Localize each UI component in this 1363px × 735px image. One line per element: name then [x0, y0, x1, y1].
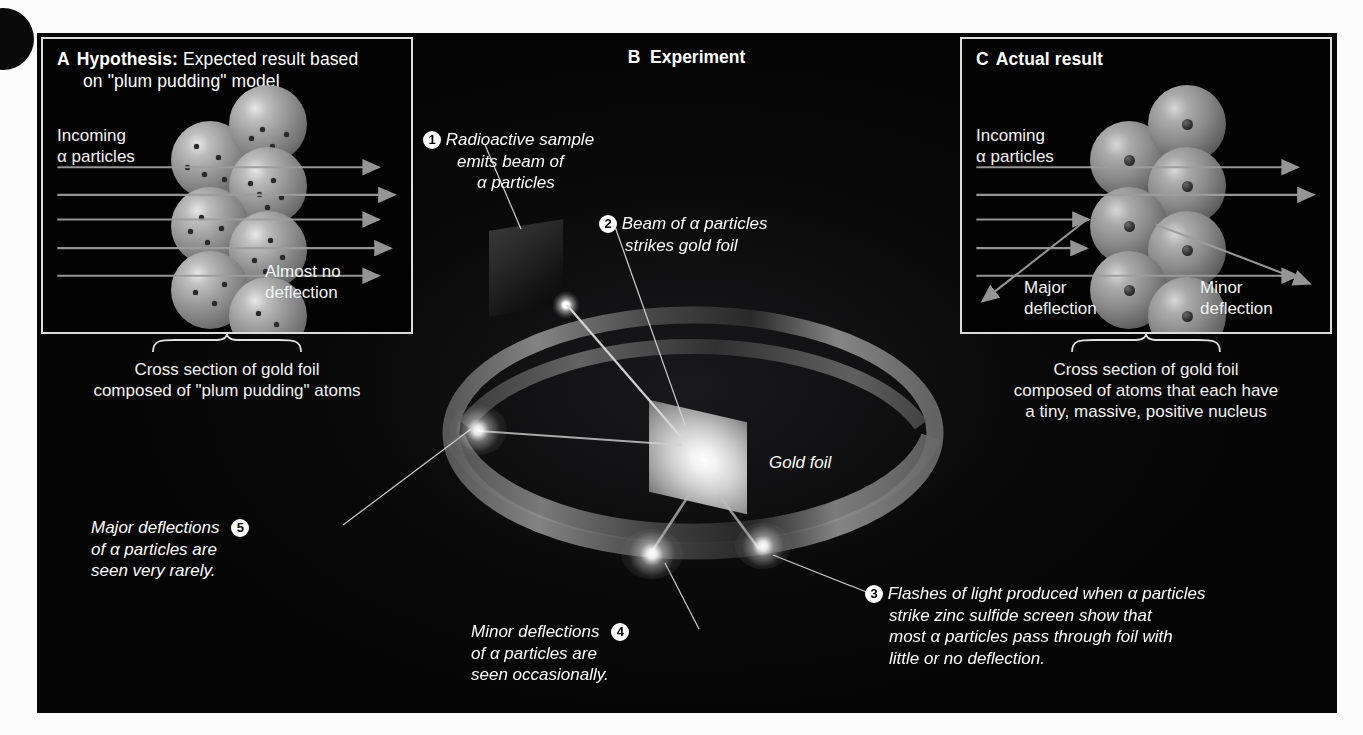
panel-b-tag: B	[628, 47, 641, 67]
callout-5-line3: seen very rarely.	[91, 561, 215, 580]
panel-a-result-line1: Almost no	[265, 262, 341, 281]
panel-c-caption-line2: composed of atoms that each have	[1014, 381, 1279, 400]
flash-of-light-minor	[621, 529, 683, 579]
panel-a-caption: Cross section of gold foil composed of "…	[41, 359, 413, 401]
panel-c-caption-line1: Cross section of gold foil	[1053, 360, 1238, 379]
callout-1-line3: α particles	[477, 172, 555, 194]
panel-a-title-bold: Hypothesis:	[77, 49, 178, 69]
nucleus-dot	[1124, 221, 1135, 232]
callout-3-badge: 3	[865, 585, 883, 603]
callout-5-badge: 5	[231, 519, 249, 537]
panel-b-title-text: Experiment	[650, 47, 745, 67]
panel-c-minor-deflection-label: Minor deflection	[1200, 277, 1273, 319]
callout-5-line1: Major deflections	[91, 518, 220, 537]
nucleus-dot	[1182, 245, 1193, 256]
callout-4-line3: seen occasionally.	[471, 665, 609, 684]
panel-c-actual-result: CActual result	[960, 37, 1332, 334]
panel-c-major-line1: Major	[1024, 278, 1067, 297]
panel-c-bracket	[960, 334, 1332, 358]
panel-a-tag: A	[57, 49, 70, 69]
panel-a-incoming-line2: α particles	[57, 147, 135, 166]
panel-c-title: CActual result	[976, 48, 1103, 70]
gold-foil	[649, 400, 747, 515]
callout-2-line2: strikes gold foil	[625, 235, 737, 257]
gold-foil-label: Gold foil	[769, 453, 831, 473]
rutherford-experiment-figure: AHypothesis: Expected result based on "p…	[37, 33, 1337, 713]
flash-of-light-major-right	[735, 523, 791, 569]
callout-4-line2: of α particles are	[471, 644, 597, 663]
radioactive-sample-box	[489, 219, 563, 317]
panel-c-incoming-line2: α particles	[976, 147, 1054, 166]
callout-1-badge: 1	[423, 131, 441, 149]
panel-c-title-text: Actual result	[996, 49, 1103, 69]
nucleus-dot	[1182, 311, 1193, 322]
callout-4: Minor deflections 4 of α particles are s…	[471, 621, 629, 686]
callout-3-line2: strike zinc sulfide screen show that	[889, 605, 1152, 627]
callout-2-line1: Beam of α particles	[622, 214, 768, 233]
callout-5-line2: of α particles are	[91, 540, 217, 559]
panel-c-caption-line3: a tiny, massive, positive nucleus	[1025, 402, 1267, 421]
callout-4-badge: 4	[611, 623, 629, 641]
figure-stage: AHypothesis: Expected result based on "p…	[0, 0, 1363, 735]
panel-a-result-line2: deflection	[265, 283, 338, 302]
panel-a-incoming-label: Incoming α particles	[57, 125, 135, 167]
panel-a-incoming-line1: Incoming	[57, 126, 126, 145]
callout-1-line2: emits beam of	[457, 151, 564, 173]
panel-c-incoming-line1: Incoming	[976, 126, 1045, 145]
panel-a-title: AHypothesis: Expected result based on "p…	[57, 48, 358, 92]
callout-2: 2 Beam of α particles strikes gold foil	[599, 213, 768, 256]
panel-c-major-deflection-label: Major deflection	[1024, 277, 1097, 319]
panel-c-caption: Cross section of gold foil composed of a…	[960, 359, 1332, 422]
corner-bullet-decoration	[0, 8, 34, 70]
panel-c-minor-line2: deflection	[1200, 299, 1273, 318]
callout-4-line1: Minor deflections	[471, 622, 600, 641]
flash-of-light-backscatter	[449, 405, 507, 455]
panel-a-result-label: Almost no deflection	[265, 261, 341, 303]
panel-c-tag: C	[976, 49, 989, 69]
callout-3-line3: most α particles pass through foil with	[889, 626, 1173, 648]
panel-c-incoming-label: Incoming α particles	[976, 125, 1054, 167]
callout-5: Major deflections 5 of α particles are s…	[91, 517, 249, 582]
callout-1-line1: Radioactive sample	[446, 130, 594, 149]
panel-c-major-line2: deflection	[1024, 299, 1097, 318]
callout-3-line4: little or no deflection.	[889, 648, 1045, 670]
panel-a-bracket	[41, 334, 413, 358]
callout-1: 1 Radioactive sample emits beam of α par…	[423, 129, 594, 194]
callout-3-line1: Flashes of light produced when α particl…	[888, 584, 1206, 603]
callout-3: 3 Flashes of light produced when α parti…	[865, 583, 1335, 669]
nucleus-dot	[1124, 285, 1135, 296]
panel-c-minor-line1: Minor	[1200, 278, 1243, 297]
nucleus-dot	[1182, 181, 1193, 192]
nucleus-dot	[1124, 155, 1135, 166]
panel-a-title-rest: Expected result based	[183, 49, 358, 69]
source-emission-point	[553, 292, 579, 318]
panel-b-experiment: B Experiment	[413, 33, 960, 713]
panel-a-hypothesis: AHypothesis: Expected result based on "p…	[41, 37, 413, 334]
panel-a-caption-line2: composed of "plum pudding" atoms	[93, 381, 360, 400]
panel-b-title: B Experiment	[413, 47, 960, 68]
callout-2-badge: 2	[599, 215, 617, 233]
nucleus-dot	[1182, 119, 1193, 130]
panel-a-caption-line1: Cross section of gold foil	[134, 360, 319, 379]
